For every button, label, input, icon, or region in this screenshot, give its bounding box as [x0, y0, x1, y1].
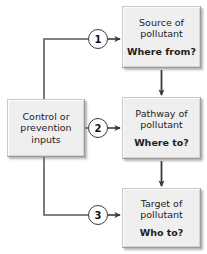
node-source-question: Where from?: [127, 46, 196, 57]
node-control-line-2: prevention: [20, 122, 71, 133]
node-control-line-1: Control or: [22, 111, 69, 122]
edge-marker-2[interactable]: 2: [88, 118, 108, 138]
node-pathway-question: Where to?: [134, 137, 189, 148]
edge-control-to-source: [44, 39, 120, 99]
node-source-line-2: pollutant: [140, 28, 182, 39]
node-pathway-of-pollutant[interactable]: Pathway of pollutant Where to?: [122, 97, 201, 159]
edge-control-to-target: [44, 157, 120, 215]
node-target-question: Who to?: [140, 227, 184, 238]
node-source-of-pollutant[interactable]: Source of pollutant Where from?: [122, 6, 201, 68]
edge-marker-1[interactable]: 1: [88, 29, 108, 49]
node-pathway-line-1: Pathway of: [135, 108, 187, 119]
pollutant-flow-diagram: Control or prevention inputs Source of p…: [0, 0, 207, 254]
node-control-line-3: inputs: [31, 134, 60, 145]
node-control-or-prevention-inputs[interactable]: Control or prevention inputs: [7, 99, 85, 157]
node-source-line-1: Source of: [139, 17, 184, 28]
node-target-of-pollutant[interactable]: Target of pollutant Who to?: [122, 188, 201, 248]
node-target-line-2: pollutant: [140, 209, 182, 220]
edge-marker-3[interactable]: 3: [88, 205, 108, 225]
node-target-line-1: Target of: [141, 198, 183, 209]
node-pathway-line-2: pollutant: [140, 119, 182, 130]
